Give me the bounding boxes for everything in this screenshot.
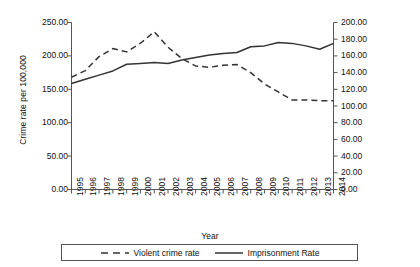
- series-line-1: [72, 43, 334, 84]
- chart-figure: Crime rate per 100,000 Imprisonment Rate…: [0, 0, 420, 267]
- solid-line-icon: [214, 250, 244, 256]
- tick-marks: [68, 23, 338, 194]
- legend-item[interactable]: Imprisonment Rate: [214, 248, 320, 258]
- dashed-line-icon: [100, 250, 130, 256]
- legend-item[interactable]: Violent crime rate: [100, 248, 200, 258]
- axis-lines: [72, 23, 334, 190]
- chart-legend: Violent crime rateImprisonment Rate: [61, 244, 358, 261]
- series-lines: [72, 32, 334, 101]
- plot-area: [0, 0, 420, 267]
- series-line-0: [72, 32, 334, 101]
- legend-label: Imprisonment Rate: [248, 248, 320, 258]
- legend-label: Violent crime rate: [134, 248, 200, 258]
